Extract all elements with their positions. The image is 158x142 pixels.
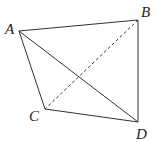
edge-AC <box>19 31 45 109</box>
label-D: D <box>135 126 147 142</box>
edge-BC-hidden <box>45 20 138 109</box>
label-C: C <box>29 108 40 124</box>
label-A: A <box>4 21 15 37</box>
label-B: B <box>141 4 150 20</box>
edge-AB <box>19 20 138 31</box>
tetrahedron-diagram: A B C D <box>0 0 158 142</box>
